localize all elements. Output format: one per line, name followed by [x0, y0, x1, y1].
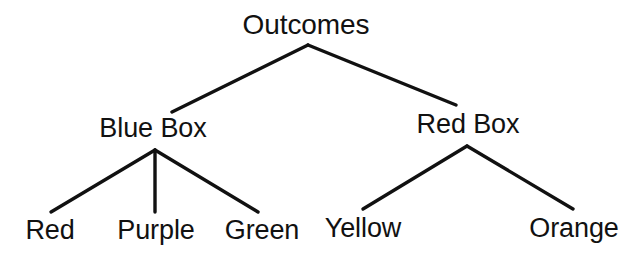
node-red: Red: [25, 216, 74, 245]
node-green: Green: [225, 216, 300, 245]
node-red-box: Red Box: [417, 110, 520, 139]
edge-outcomes-to-red-box: [308, 45, 456, 105]
edge-red-box-to-yellow: [363, 146, 467, 209]
node-yellow: Yellow: [325, 214, 401, 243]
edge-blue-box-to-green: [155, 150, 258, 212]
edge-red-box-to-orange: [467, 146, 573, 209]
node-orange: Orange: [529, 214, 618, 243]
edge-blue-box-to-red: [51, 150, 155, 212]
tree-diagram: Outcomes Blue Box Red Box Red Purple Gre…: [0, 0, 632, 264]
node-outcomes: Outcomes: [243, 10, 370, 40]
edge-outcomes-to-blue-box: [172, 45, 308, 112]
node-purple: Purple: [117, 216, 194, 245]
node-blue-box: Blue Box: [99, 114, 206, 143]
